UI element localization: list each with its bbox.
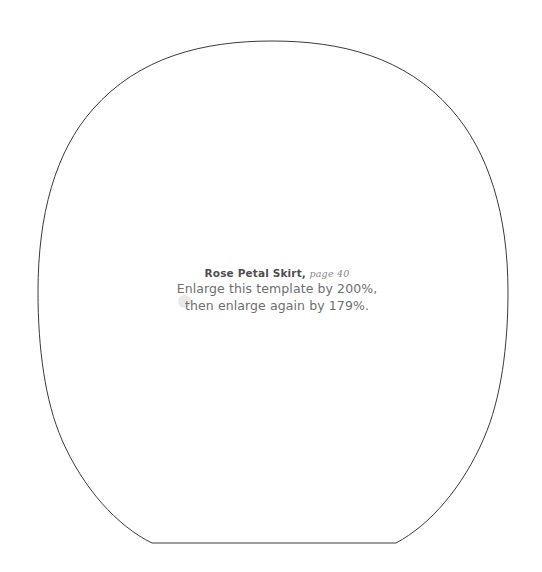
- note-title: Rose Petal Skirt, page 40: [0, 268, 542, 279]
- template-instruction-note: Rose Petal Skirt, page 40 Enlarge this t…: [0, 268, 542, 318]
- note-instruction-line-2: then enlarge again by 179%.: [0, 300, 542, 313]
- pattern-template-page: Rose Petal Skirt, page 40 Enlarge this t…: [0, 0, 542, 572]
- note-title-project: Rose Petal Skirt,: [205, 267, 306, 279]
- note-instruction-line-1: Enlarge this template by 200%,: [0, 283, 542, 296]
- note-title-page-reference: page 40: [309, 268, 349, 279]
